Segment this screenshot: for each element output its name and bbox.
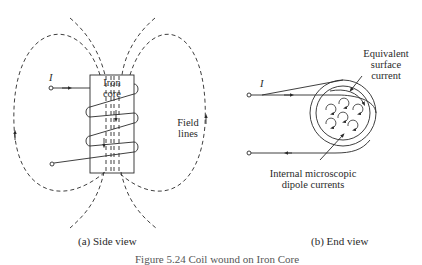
end-view	[247, 76, 376, 160]
iron-core-label-line1: Iron	[96, 77, 128, 88]
field-lines-label: Field lines	[172, 117, 204, 139]
surface-label-line2: surface	[355, 59, 417, 70]
equivalent-surface-current-label: Equivalent surface current	[355, 48, 417, 81]
end-view-caption: (b) End view	[311, 236, 368, 247]
dipole-label-line2: dipole currents	[263, 179, 363, 190]
figure-caption: Figure 5.24 Coil wound on Iron Core	[135, 254, 299, 265]
iron-core-label-line2: core	[96, 88, 128, 99]
current-label-side: I	[49, 72, 53, 83]
field-lines-label-line1: Field	[172, 117, 204, 128]
field-lines-label-line2: lines	[172, 128, 204, 139]
surface-label-line3: current	[355, 70, 417, 81]
iron-core-label: Iron core	[96, 77, 128, 99]
surface-label-line1: Equivalent	[355, 48, 417, 59]
side-view-caption: (a) Side view	[78, 236, 137, 247]
dipole-currents-label: Internal microscopic dipole currents	[263, 168, 363, 190]
current-label-end: I	[260, 78, 264, 89]
dipole-label-line1: Internal microscopic	[263, 168, 363, 179]
